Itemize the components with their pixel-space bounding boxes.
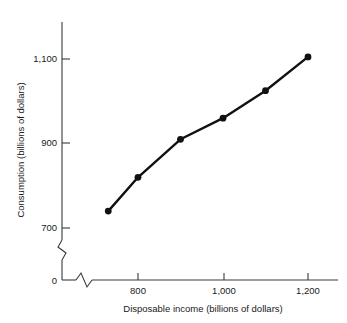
origin-label: 0 bbox=[52, 275, 57, 286]
data-point bbox=[105, 208, 112, 215]
data-point bbox=[305, 53, 312, 60]
y-tick-label-900: 900 bbox=[41, 137, 57, 148]
x-axis-title: Disposable income (billions of dollars) bbox=[123, 303, 282, 314]
x-tick-label-1000: 1,000 bbox=[212, 285, 236, 296]
y-axis-title: Consumption (billions of dollars) bbox=[15, 82, 26, 217]
consumption-income-chart: 1,100 900 700 0 800 1,000 1,200 Disposab… bbox=[0, 0, 347, 323]
data-point bbox=[135, 174, 142, 181]
data-point bbox=[262, 87, 269, 94]
data-point bbox=[220, 115, 227, 122]
x-tick-label-800: 800 bbox=[130, 285, 146, 296]
data-point bbox=[177, 136, 184, 143]
x-tick-label-1200: 1,200 bbox=[296, 285, 320, 296]
y-tick-label-700: 700 bbox=[41, 222, 57, 233]
chart-canvas: 1,100 900 700 0 800 1,000 1,200 Disposab… bbox=[0, 0, 347, 323]
y-tick-label-1100: 1,100 bbox=[33, 53, 57, 64]
